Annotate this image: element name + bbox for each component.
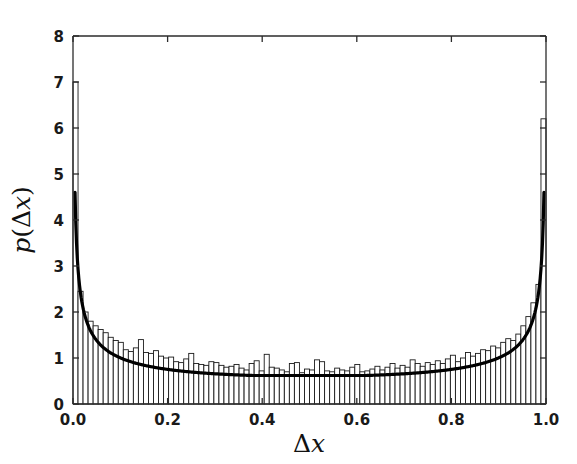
histogram-bar — [174, 362, 179, 404]
histogram-bar — [481, 350, 486, 404]
histogram-bar — [501, 342, 506, 404]
histogram-bar — [471, 356, 476, 404]
histogram-bar — [194, 364, 199, 404]
figure-container: 012345678 0.00.20.40.60.81.0 Δx p(Δx) — [0, 0, 577, 464]
histogram-bar — [506, 339, 511, 404]
histogram-bar — [133, 348, 138, 404]
x-axis-label-var: x — [311, 429, 325, 458]
histogram-bar — [415, 364, 420, 404]
histogram-bar — [209, 362, 214, 404]
histogram-bar — [159, 356, 164, 404]
histogram-bar — [385, 367, 390, 404]
x-tick-label: 1.0 — [533, 411, 560, 429]
y-axis-label-p: p — [7, 238, 36, 254]
y-tick-label: 8 — [54, 28, 64, 46]
histogram-bar — [224, 367, 229, 404]
histogram-bar — [294, 363, 299, 404]
x-axis-label-delta: Δ — [293, 429, 311, 458]
histogram-bar — [108, 337, 113, 404]
histogram-bar — [148, 353, 153, 404]
histogram-bar — [486, 351, 491, 404]
y-axis-label-close: ) — [7, 186, 36, 196]
histogram-bar — [320, 362, 325, 404]
histogram-bar — [460, 358, 465, 404]
histogram-bar — [410, 360, 415, 404]
y-tick-label: 6 — [54, 120, 64, 138]
x-axis-label: Δx — [293, 429, 325, 458]
y-tick-label: 3 — [54, 258, 64, 276]
histogram-bar — [375, 366, 380, 404]
histogram-bar — [465, 352, 470, 404]
histogram-bar — [269, 367, 274, 404]
histogram-bar — [164, 358, 169, 404]
y-axis-label-delta: Δ — [7, 210, 36, 228]
histogram-bar — [154, 351, 159, 404]
histogram-bar — [204, 365, 209, 404]
histogram-bar — [113, 341, 118, 404]
y-tick-label: 7 — [54, 74, 64, 92]
x-tick-label: 0.0 — [60, 411, 87, 429]
x-tick-label: 0.4 — [249, 411, 276, 429]
histogram-bar — [219, 365, 224, 404]
histogram-bar — [199, 364, 204, 404]
histogram-bar — [335, 368, 340, 404]
y-tick-label: 1 — [54, 350, 64, 368]
y-tick-label: 2 — [54, 304, 64, 322]
histogram-bar — [254, 361, 259, 404]
x-tick-label: 0.8 — [438, 411, 465, 429]
histogram-bar — [450, 355, 455, 404]
histogram-bar — [214, 363, 219, 404]
histogram-bar — [274, 368, 279, 404]
histogram-bar — [234, 364, 239, 404]
histogram-bar — [103, 333, 108, 404]
histogram-bar — [229, 366, 234, 404]
histogram-bar — [390, 364, 395, 404]
histogram-bar — [249, 364, 254, 404]
y-axis-label-open: ( — [7, 228, 36, 238]
histogram-bar — [400, 365, 405, 404]
histogram-bar — [491, 346, 496, 404]
y-tick-label: 4 — [54, 212, 64, 230]
histogram-bar — [350, 367, 355, 404]
histogram-bar — [445, 359, 450, 404]
histogram-bar — [138, 340, 143, 404]
histogram-bar — [315, 360, 320, 404]
histogram-bar — [98, 329, 103, 404]
histogram-bar — [299, 373, 304, 404]
y-axis-label-var: x — [7, 196, 36, 210]
x-tick-label: 0.2 — [154, 411, 181, 429]
histogram-bar — [143, 352, 148, 404]
histogram-bar — [128, 352, 133, 404]
histogram-bar — [435, 361, 440, 404]
y-tick-label: 5 — [54, 166, 64, 184]
histogram-bar — [189, 353, 194, 404]
histogram-bar — [476, 353, 481, 404]
histogram-bar — [425, 363, 430, 404]
histogram-bar — [169, 357, 174, 404]
y-axis-label: p(Δx) — [7, 186, 36, 254]
histogram-chart: 012345678 0.00.20.40.60.81.0 Δx p(Δx) — [0, 0, 577, 464]
histogram-bar — [264, 354, 269, 404]
histogram-bar — [184, 359, 189, 404]
histogram-bar — [289, 364, 294, 404]
histogram-bar — [118, 342, 123, 404]
histogram-bar — [179, 363, 184, 404]
x-tick-label: 0.6 — [344, 411, 371, 429]
